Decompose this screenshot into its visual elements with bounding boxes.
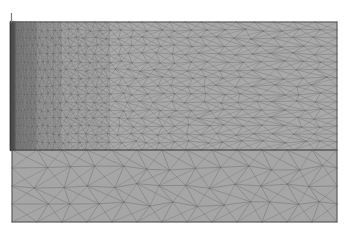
mesh-figure-root: Two-zone graded triangular finite-elemen… bbox=[0, 0, 350, 239]
left-wall-boundary-layer bbox=[10, 22, 15, 150]
mesh-diagram bbox=[0, 0, 350, 239]
